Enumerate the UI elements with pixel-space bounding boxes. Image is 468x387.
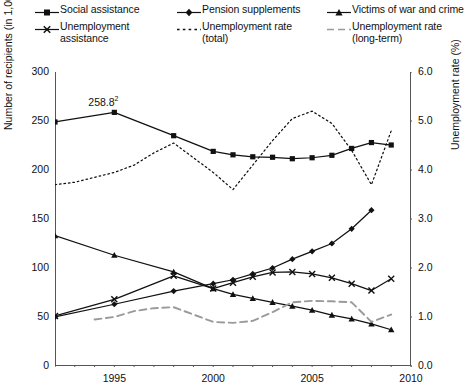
line-triangle-marker-icon: [326, 6, 352, 19]
x-axis-tick: 2010: [391, 372, 431, 384]
legend-item-unemployment-rate-long-term: Unemployment rate(long-term): [326, 21, 468, 44]
legend-column-2: Pension supplements Unemployment rate(to…: [176, 4, 312, 46]
series-line: [55, 112, 391, 158]
legend-label-line2: (long-term): [352, 33, 442, 45]
data-point-annotation: 258.82: [88, 95, 118, 108]
dashed-line-grey-icon: [326, 23, 352, 36]
dotted-line-icon: [176, 23, 202, 36]
series-marker: [289, 256, 295, 262]
legend-item-unemployment-assistance: Unemploymentassistance: [34, 21, 162, 44]
series-marker: [369, 140, 374, 145]
legend-label: Social assistance: [60, 4, 139, 16]
y-axis-left-title: Number of recipients (in 1,000s): [2, 0, 14, 130]
legend-column-1: Social assistance Unemploymentassistance: [34, 4, 162, 46]
legend-label: Pension supplements: [202, 4, 301, 16]
line-diamond-marker-icon: [176, 6, 202, 19]
annotation-footnote: 2: [115, 95, 119, 102]
series-marker: [230, 152, 235, 157]
series-line: [55, 236, 391, 330]
chart-legend: Social assistance Unemploymentassistance: [28, 4, 452, 52]
series-marker: [55, 119, 58, 124]
y-axis-left-tick: 300: [19, 65, 49, 77]
series-marker: [211, 149, 216, 154]
y-axis-right-tick: 5.0: [418, 114, 448, 126]
series-marker: [290, 156, 295, 161]
legend-label-line2: (total): [202, 33, 292, 45]
y-axis-right-tick: 4.0: [418, 163, 448, 175]
legend-item-unemployment-rate-total: Unemployment rate(total): [176, 21, 312, 44]
x-axis-tick: 2005: [292, 372, 332, 384]
legend-label: Unemployment rate(total): [202, 21, 292, 44]
y-axis-right-tick: 0.0: [418, 359, 448, 371]
y-axis-left-tick: 250: [19, 114, 49, 126]
series-marker: [389, 142, 394, 147]
legend-item-victims-of-war-and-crime: Victims of war and crime: [326, 4, 468, 19]
series-marker: [171, 133, 176, 138]
series-marker: [171, 288, 177, 294]
line-cross-marker-icon: [34, 23, 60, 36]
y-axis-left-tick: 0: [19, 359, 49, 371]
series-line: [95, 301, 392, 323]
legend-label: Unemployment rate(long-term): [352, 21, 442, 44]
legend-item-pension-supplements: Pension supplements: [176, 4, 312, 19]
y-axis-left-tick: 200: [19, 163, 49, 175]
plot-area: [55, 72, 411, 366]
line-square-marker-icon: [34, 6, 60, 19]
legend-label-line2: assistance: [60, 33, 129, 45]
legend-column-3: Victims of war and crime Unemployment ra…: [326, 4, 468, 46]
y-axis-right-tick: 1.0: [418, 310, 448, 322]
x-axis-tick: 1995: [94, 372, 134, 384]
series-line: [55, 111, 391, 189]
x-axis-tick: 2000: [193, 372, 233, 384]
series-marker: [368, 288, 374, 294]
y-axis-left-tick: 50: [19, 310, 49, 322]
series-marker: [309, 248, 315, 254]
series-marker: [112, 110, 117, 115]
y-axis-right-tick: 6.0: [418, 65, 448, 77]
annotation-value: 258.8: [88, 96, 114, 108]
legend-label: Victims of war and crime: [352, 4, 464, 16]
y-axis-right-tick: 3.0: [418, 212, 448, 224]
y-axis-right-title: Unemployment rate (%): [449, 0, 461, 150]
y-axis-right-tick: 2.0: [418, 261, 448, 273]
series-marker: [250, 154, 255, 159]
y-axis-left-tick: 100: [19, 261, 49, 273]
series-marker: [310, 155, 315, 160]
series-marker: [270, 155, 275, 160]
series-marker: [388, 276, 394, 282]
y-axis-left-tick: 150: [19, 212, 49, 224]
legend-item-social-assistance: Social assistance: [34, 4, 162, 19]
legend-label: Unemploymentassistance: [60, 21, 129, 44]
series-marker: [329, 153, 334, 158]
series-line: [55, 272, 391, 316]
